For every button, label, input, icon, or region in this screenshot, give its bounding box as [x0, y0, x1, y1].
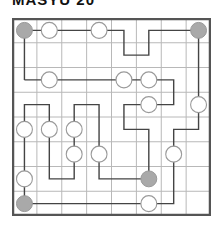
white-pearl-icon: [41, 72, 57, 88]
white-pearl-icon: [66, 146, 82, 162]
black-pearl-icon: [16, 22, 32, 38]
white-pearl-icon: [91, 146, 107, 162]
white-pearl-icon: [91, 22, 107, 38]
grid-cell[interactable]: [161, 43, 186, 68]
grid-cell[interactable]: [186, 167, 211, 192]
black-pearl-icon: [191, 22, 207, 38]
grid-cell[interactable]: [186, 191, 211, 216]
white-pearl-icon: [141, 97, 157, 113]
grid-cell[interactable]: [186, 142, 211, 167]
white-pearl-icon: [66, 121, 82, 137]
white-pearl-icon: [191, 97, 207, 113]
black-pearl-icon: [141, 171, 157, 187]
white-pearl-icon: [41, 22, 57, 38]
grid-cell[interactable]: [62, 43, 87, 68]
white-pearl-icon: [16, 121, 32, 137]
white-pearl-icon: [116, 72, 132, 88]
grid-cell[interactable]: [112, 142, 137, 167]
masyu-grid[interactable]: [12, 18, 211, 216]
puzzle-board[interactable]: [12, 18, 211, 216]
puzzle-title: MASYU 20: [12, 0, 95, 8]
white-pearl-icon: [141, 72, 157, 88]
grid-cell[interactable]: [87, 43, 112, 68]
white-pearl-icon: [16, 171, 32, 187]
grid-cell[interactable]: [37, 43, 62, 68]
white-pearl-icon: [41, 121, 57, 137]
white-pearl-icon: [166, 146, 182, 162]
white-pearl-icon: [141, 196, 157, 212]
black-pearl-icon: [16, 196, 32, 212]
